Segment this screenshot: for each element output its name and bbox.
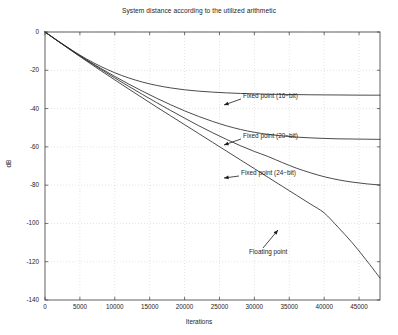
arrow-head (224, 176, 229, 180)
y-tick-label: 0 (11, 28, 39, 35)
plot-area (0, 0, 398, 335)
data-curves (45, 32, 380, 278)
y-tick-label: -120 (11, 258, 39, 265)
axes-frame (45, 32, 380, 300)
figure-canvas: System distance according to the utilize… (0, 0, 398, 335)
arrow-head (224, 102, 229, 106)
curve-fixed-point-20-bit (45, 32, 380, 139)
y-tick-label: -80 (11, 181, 39, 188)
y-tick-label: -60 (11, 143, 39, 150)
y-tick-label: -100 (11, 219, 39, 226)
y-tick-label: -20 (11, 66, 39, 73)
tick-marks (45, 32, 380, 300)
annotation-label: Fixed point (24−bit) (241, 169, 296, 176)
annotation-label: Fixed point (20−bit) (243, 132, 298, 139)
x-tick-label: 45000 (339, 303, 379, 310)
curve-floating-point (45, 32, 380, 278)
y-tick-label: -140 (11, 296, 39, 303)
y-tick-label: -40 (11, 105, 39, 112)
gridlines (45, 32, 380, 300)
annotation-label: Floating point (249, 248, 287, 255)
arrow-head (224, 142, 229, 146)
annotation-label: Fixed point (16−bit) (243, 92, 298, 99)
curve-fixed-point-16-bit (45, 32, 380, 95)
curve-fixed-point-24-bit (45, 32, 380, 185)
